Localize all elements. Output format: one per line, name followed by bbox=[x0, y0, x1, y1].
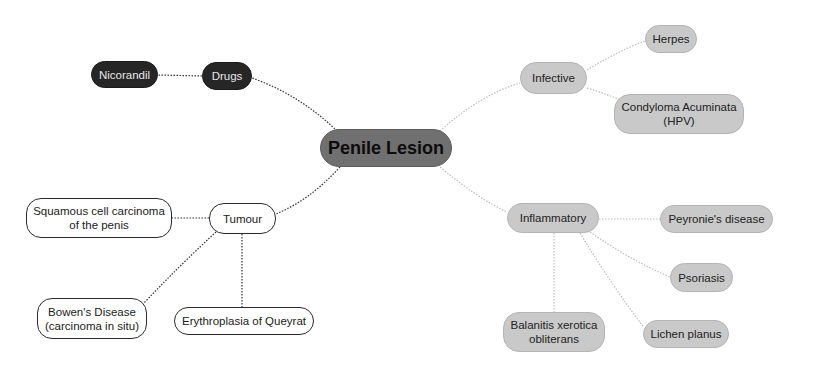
node-erythroplasia: Erythroplasia of Queyrat bbox=[174, 307, 314, 335]
connector-line bbox=[590, 232, 670, 277]
node-bowen: Bowen's Disease (carcinoma in situ) bbox=[37, 298, 147, 339]
connector-line bbox=[440, 83, 520, 131]
node-root: Penile Lesion bbox=[320, 129, 452, 167]
node-psoriasis: Psoriasis bbox=[670, 263, 733, 292]
node-squamous: Squamous cell carcinoma of the penis bbox=[26, 198, 172, 238]
node-nicorandil: Nicorandil bbox=[91, 61, 158, 88]
connector-line bbox=[587, 88, 620, 100]
node-lichen: Lichen planus bbox=[643, 320, 729, 348]
node-drugs: Drugs bbox=[202, 62, 252, 90]
node-infective: Infective bbox=[520, 62, 587, 94]
connector-line bbox=[276, 167, 340, 214]
node-condyloma: Condyloma Acuminata (HPV) bbox=[614, 94, 744, 134]
connector-line bbox=[144, 232, 216, 303]
node-herpes: Herpes bbox=[645, 25, 697, 53]
connector-line bbox=[252, 78, 337, 131]
connector-line bbox=[158, 75, 202, 76]
node-peyronie: Peyronie's disease bbox=[660, 205, 773, 233]
connector-line bbox=[587, 41, 645, 70]
node-tumour: Tumour bbox=[209, 203, 276, 234]
node-inflammatory: Inflammatory bbox=[507, 203, 599, 233]
node-balanitis: Balanitis xerotica obliterans bbox=[503, 312, 605, 352]
connector-line bbox=[440, 167, 507, 212]
